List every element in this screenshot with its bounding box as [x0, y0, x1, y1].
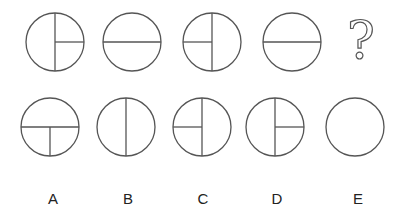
option-figure-a[interactable] [21, 98, 79, 156]
question-figure-2 [103, 13, 161, 71]
option-figure-d[interactable] [246, 98, 304, 156]
question-figure-3 [183, 13, 241, 71]
question-mark-icon: ? [344, 10, 378, 70]
option-figure-e[interactable] [326, 98, 384, 156]
question-figure-1 [26, 13, 84, 71]
option-label-e[interactable]: E [346, 190, 370, 207]
option-figure-c[interactable] [173, 98, 231, 156]
option-label-c[interactable]: C [191, 190, 215, 207]
option-label-d[interactable]: D [265, 190, 289, 207]
option-label-a[interactable]: A [41, 190, 65, 207]
question-figure-4 [263, 13, 321, 71]
option-figure-b[interactable] [97, 98, 155, 156]
option-label-b[interactable]: B [116, 190, 140, 207]
